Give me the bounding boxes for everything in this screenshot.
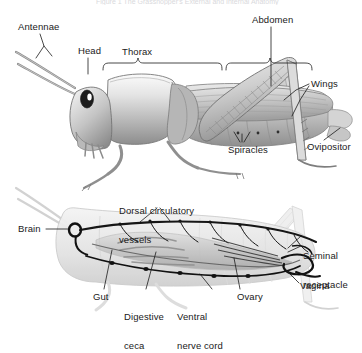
label-line-1: Seminal [303,251,348,261]
label-dorsal-circulatory-vessels: Dorsal circulatory vessels [119,186,194,264]
label-ovipositor: Ovipositor [307,142,351,152]
label-line-1: Dorsal circulatory [119,206,194,216]
label-thorax: Thorax [122,47,152,57]
label-digestive-ceca: Digestive ceca [124,292,164,353]
label-line-2: vessels [119,235,194,245]
compound-eye [81,90,94,108]
label-vagina: Vagina [300,281,329,291]
label-antennae: Antennae [18,22,59,32]
label-line-2: ceca [124,341,164,351]
label-line-1: Ventral [177,312,223,322]
label-head: Head [78,46,101,56]
label-ventral-nerve-cord: Ventral nerve cord [177,292,223,353]
label-ovary: Ovary [237,292,263,302]
label-wings: Wings [311,79,338,89]
label-line-1: Digestive [124,312,164,322]
label-brain: Brain [18,224,41,234]
label-abdomen: Abdomen [252,15,293,25]
label-spiracles: Spiracles [228,145,268,155]
label-gut: Gut [93,292,109,302]
figure-title: Figure 1 The Grasshopper's External and … [96,0,296,5]
ovipositor-structure [327,110,352,141]
label-seminal-receptacle: Seminal receptacle [303,231,348,309]
label-line-2: nerve cord [177,341,223,351]
